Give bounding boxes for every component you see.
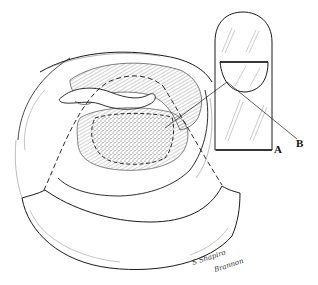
signature-line-2: Brannon — [212, 257, 245, 274]
illustration-canvas: A B S Shapiro Brannon — [0, 0, 318, 285]
nail-surgery-figure: A B S Shapiro Brannon — [0, 0, 318, 285]
label-b: B — [296, 137, 304, 149]
finger-inset — [215, 12, 272, 150]
label-a: A — [274, 143, 282, 155]
main-view — [15, 52, 240, 269]
